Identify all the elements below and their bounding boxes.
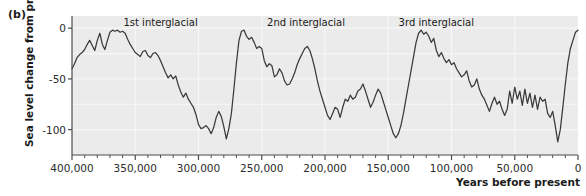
x-axis-tick-label: 250,000: [240, 162, 283, 174]
x-axis-tick-label: 300,000: [177, 162, 220, 174]
x-axis-tick-label: 350,000: [114, 162, 157, 174]
y-axis-tick-label: 0: [32, 22, 66, 34]
x-axis-tick-label: 400,000: [50, 162, 93, 174]
x-axis-tick-labels: 400,000350,000300,000250,000200,000150,0…: [0, 162, 586, 178]
y-axis-tick-label: -100: [32, 124, 66, 136]
x-axis-tick-label: 50,000: [496, 162, 533, 174]
x-axis-tick-label: 200,000: [303, 162, 346, 174]
x-axis-tick-label: 0: [575, 162, 582, 174]
figure-panel-b: (b) Sea level change from present (m) Ye…: [0, 0, 586, 196]
y-axis-tick-label: -50: [32, 73, 66, 85]
x-axis-tick-label: 100,000: [430, 162, 473, 174]
x-axis-tick-label: 150,000: [367, 162, 410, 174]
